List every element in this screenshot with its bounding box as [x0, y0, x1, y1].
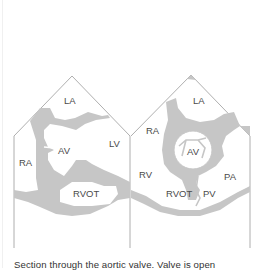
figure-caption: Section through the aortic valve. Valve … — [14, 259, 264, 270]
right-corner-tissue — [240, 126, 250, 136]
left-label-rvot: RVOT — [73, 188, 99, 199]
right-label-av: AV — [187, 146, 200, 157]
right-label-pv: PV — [203, 188, 216, 199]
right-label-ra: RA — [146, 125, 160, 136]
right-label-pa: PA — [224, 171, 237, 182]
left-label-av: AV — [58, 145, 71, 156]
right-label-la: LA — [193, 95, 205, 106]
left-label-lv: LV — [109, 138, 121, 149]
left-label-la: LA — [64, 95, 76, 106]
right-label-rv: RV — [139, 169, 153, 180]
right-panel: LA RA AV RV PA RVOT PV — [131, 75, 250, 248]
left-label-ra: RA — [19, 157, 33, 168]
left-panel: LA LV RA AV RVOT — [14, 76, 130, 248]
right-label-rvot: RVOT — [166, 188, 192, 199]
